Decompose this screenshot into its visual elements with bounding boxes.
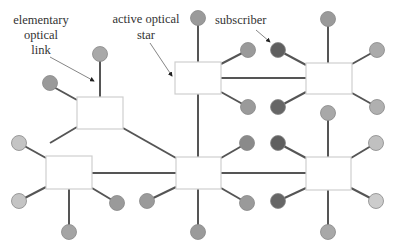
subscriber-node: [369, 136, 384, 151]
arrow-elementary-link: [50, 57, 94, 81]
subscriber-node: [369, 194, 384, 209]
label-elementary-line1: elementary: [13, 13, 69, 27]
subscriber-node: [271, 194, 286, 209]
subscriber-node: [12, 194, 27, 209]
label-active-star-line1: active optical: [113, 12, 181, 26]
label-subscriber: subscriber: [215, 13, 267, 27]
optical-network-diagram: elementary optical link active optical s…: [0, 0, 393, 251]
subscriber-node: [241, 43, 256, 58]
subscriber-node: [240, 196, 255, 211]
star-bottom-middle: [176, 157, 221, 189]
subscriber-node: [43, 76, 58, 91]
subscriber-node: [321, 225, 336, 240]
star-top-left: [77, 97, 123, 129]
subscriber-node: [271, 136, 286, 151]
star-bottom-left: [46, 156, 92, 189]
subscriber-node: [93, 47, 108, 62]
label-active-star-line2: star: [137, 28, 156, 42]
star-bottom-right: [306, 157, 351, 190]
star-top-middle: [175, 62, 221, 94]
subscriber-node: [62, 225, 77, 240]
star-top-right: [306, 63, 352, 94]
subscriber-node: [191, 225, 206, 240]
subscriber-node: [240, 136, 255, 151]
subscriber-node: [241, 100, 256, 115]
link-topleft-bottommiddle: [123, 128, 176, 158]
arrow-active-star: [150, 43, 172, 76]
subscriber-node: [370, 100, 385, 115]
arrow-subscriber: [256, 30, 270, 42]
subscriber-node: [271, 100, 286, 115]
label-elementary-line2: optical: [24, 28, 59, 42]
subscriber-node: [191, 11, 206, 26]
subscriber-node: [110, 196, 125, 211]
subscriber-node: [12, 136, 27, 151]
subscriber-node-highlighted: [271, 43, 286, 58]
subscriber-node: [321, 106, 336, 121]
subscriber-node: [321, 12, 336, 27]
annotation-labels: elementary optical link active optical s…: [13, 12, 267, 57]
subscriber-node: [370, 43, 385, 58]
label-elementary-line3: link: [31, 43, 51, 57]
subscriber-node: [140, 194, 155, 209]
